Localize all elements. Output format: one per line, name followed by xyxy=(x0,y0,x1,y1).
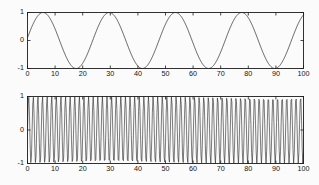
x-tick-label: 30 xyxy=(106,164,114,173)
x-tick-label: 10 xyxy=(51,69,59,78)
y-tick-label: 1 xyxy=(20,7,24,16)
x-tick-label: 60 xyxy=(189,164,197,173)
x-tick-label: 30 xyxy=(106,69,114,78)
x-tick-label: 20 xyxy=(79,69,87,78)
chart-panel-top: 0102030405060708090100-101 xyxy=(0,0,319,92)
x-tick-label: 40 xyxy=(134,164,142,173)
x-tick-label: 40 xyxy=(134,69,142,78)
y-tick-label: 1 xyxy=(20,91,24,100)
y-tick-label: 0 xyxy=(20,35,24,44)
low-frequency-sine-curve xyxy=(28,13,304,69)
x-tick-label: 60 xyxy=(189,69,197,78)
y-tick-label: 0 xyxy=(20,125,24,134)
x-tick-label: 80 xyxy=(244,164,252,173)
x-tick-label: 0 xyxy=(26,69,30,78)
high-frequency-oscillation-curve xyxy=(28,97,304,164)
x-tick-label: 100 xyxy=(298,69,310,78)
figure-canvas: 0102030405060708090100-101 0102030405060… xyxy=(0,0,319,185)
bottom-plot-svg: 0102030405060708090100-101 xyxy=(0,90,319,185)
x-tick-label: 10 xyxy=(51,164,59,173)
x-tick-label: 80 xyxy=(244,69,252,78)
x-tick-label: 50 xyxy=(162,164,170,173)
x-tick-label: 70 xyxy=(217,69,225,78)
x-tick-label: 90 xyxy=(272,69,280,78)
top-plot-svg: 0102030405060708090100-101 xyxy=(0,0,319,92)
chart-panel-bottom: 0102030405060708090100-101 xyxy=(0,90,319,185)
x-tick-label: 90 xyxy=(272,164,280,173)
plot-frame xyxy=(28,13,304,69)
y-tick-label: -1 xyxy=(18,158,24,167)
y-tick-label: -1 xyxy=(18,63,24,72)
x-tick-label: 20 xyxy=(79,164,87,173)
x-tick-label: 50 xyxy=(162,69,170,78)
x-tick-label: 70 xyxy=(217,164,225,173)
x-tick-label: 100 xyxy=(298,164,310,173)
x-tick-label: 0 xyxy=(26,164,30,173)
